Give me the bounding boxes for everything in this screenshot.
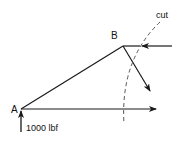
member-ab bbox=[21, 46, 123, 109]
truss-diagram: A B cut 1000 lbf bbox=[0, 0, 180, 143]
label-node-b: B bbox=[111, 30, 118, 41]
label-load: 1000 lbf bbox=[26, 123, 59, 133]
label-cut: cut bbox=[156, 10, 169, 20]
label-node-a: A bbox=[11, 104, 18, 115]
